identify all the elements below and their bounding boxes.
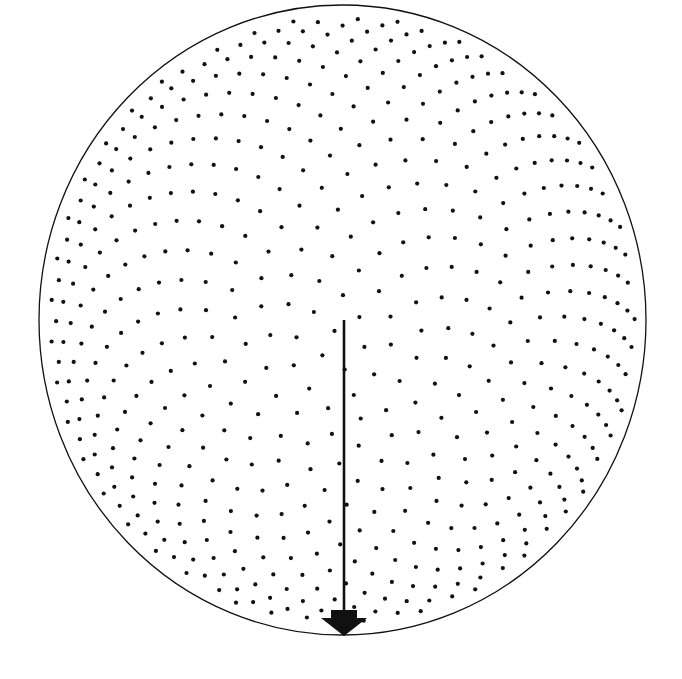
dot bbox=[55, 380, 59, 384]
dot bbox=[372, 510, 376, 514]
dot bbox=[456, 548, 460, 552]
dot bbox=[403, 158, 407, 162]
dot bbox=[169, 141, 173, 145]
dot bbox=[527, 217, 531, 221]
dot bbox=[446, 326, 450, 330]
dot bbox=[614, 246, 618, 250]
dot bbox=[570, 236, 574, 240]
dot bbox=[130, 109, 134, 113]
dot bbox=[454, 81, 458, 85]
dot bbox=[396, 59, 400, 63]
dot bbox=[316, 20, 320, 24]
dot bbox=[160, 80, 164, 84]
dot bbox=[249, 55, 253, 59]
dot bbox=[474, 410, 478, 414]
dot bbox=[133, 135, 137, 139]
dot bbox=[414, 300, 418, 304]
dot bbox=[328, 154, 332, 158]
dot bbox=[404, 32, 408, 36]
dot bbox=[274, 96, 278, 100]
dot bbox=[427, 235, 431, 239]
dot bbox=[549, 386, 553, 390]
dot bbox=[571, 263, 575, 267]
dot bbox=[438, 90, 442, 94]
dot bbox=[412, 541, 416, 545]
dot bbox=[146, 171, 150, 175]
dot bbox=[393, 558, 397, 562]
dot bbox=[509, 360, 513, 364]
dot bbox=[81, 457, 85, 461]
dot bbox=[363, 591, 367, 595]
dot bbox=[297, 59, 301, 63]
dot bbox=[569, 394, 573, 398]
dot bbox=[550, 113, 554, 117]
dot bbox=[57, 278, 61, 282]
dot bbox=[291, 19, 295, 23]
dot bbox=[229, 509, 233, 513]
dot bbox=[180, 428, 184, 432]
dot bbox=[176, 503, 180, 507]
dot bbox=[562, 498, 566, 502]
dot bbox=[522, 554, 526, 558]
dot bbox=[266, 250, 270, 254]
dot bbox=[315, 587, 319, 591]
dot bbox=[381, 71, 385, 75]
dot bbox=[608, 389, 612, 393]
dot bbox=[77, 220, 81, 224]
dot bbox=[320, 186, 324, 190]
dot bbox=[286, 302, 290, 306]
dot bbox=[495, 521, 499, 525]
dot bbox=[71, 282, 75, 286]
dot bbox=[244, 342, 248, 346]
dot bbox=[485, 431, 489, 435]
dot bbox=[486, 72, 490, 76]
dot bbox=[55, 256, 59, 260]
dot bbox=[260, 489, 264, 493]
dot bbox=[539, 361, 543, 365]
dot bbox=[455, 435, 459, 439]
dot bbox=[566, 136, 570, 140]
dot bbox=[412, 50, 416, 54]
dot bbox=[287, 127, 291, 131]
dot bbox=[238, 43, 242, 47]
dot bbox=[484, 152, 488, 156]
dot bbox=[481, 561, 485, 565]
dot bbox=[319, 608, 323, 612]
dot bbox=[550, 158, 554, 162]
dot bbox=[537, 111, 541, 115]
dot bbox=[582, 317, 586, 321]
dot bbox=[96, 472, 100, 476]
dot bbox=[601, 191, 605, 195]
dot bbox=[451, 209, 455, 213]
dot bbox=[83, 265, 87, 269]
dot bbox=[134, 394, 138, 398]
dot bbox=[384, 408, 388, 412]
dot bbox=[537, 134, 541, 138]
dot bbox=[450, 58, 454, 62]
dot bbox=[105, 345, 109, 349]
dot bbox=[616, 274, 620, 278]
dot bbox=[315, 226, 319, 230]
dot bbox=[306, 441, 310, 445]
dot bbox=[609, 433, 613, 437]
dot bbox=[625, 309, 629, 313]
dot bbox=[458, 566, 462, 570]
dot bbox=[583, 435, 587, 439]
dot bbox=[434, 499, 438, 503]
dot bbox=[210, 335, 214, 339]
dot bbox=[169, 191, 173, 195]
dot bbox=[148, 147, 152, 151]
dot bbox=[526, 339, 530, 343]
dot bbox=[277, 459, 281, 463]
dot bbox=[414, 356, 418, 360]
dot bbox=[202, 62, 206, 66]
dot bbox=[153, 125, 157, 129]
dot bbox=[93, 227, 97, 231]
dot bbox=[360, 194, 364, 198]
dot bbox=[183, 336, 187, 340]
dot bbox=[256, 412, 260, 416]
dot bbox=[517, 513, 521, 517]
dot bbox=[301, 168, 305, 172]
dot bbox=[371, 220, 375, 224]
dot bbox=[292, 363, 296, 367]
